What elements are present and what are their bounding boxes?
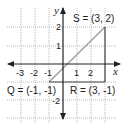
point-s-label: S = (3, 2) xyxy=(73,13,114,24)
x-axis-label: x xyxy=(112,65,118,77)
y-tick-1: 1 xyxy=(56,41,61,51)
y-tick-neg2: -2 xyxy=(52,96,60,106)
coordinate-plane: x y -3 -2 -1 1 2 2 1 -2 S = (3, 2) Q = (… xyxy=(0,0,129,125)
x-tick-1: 1 xyxy=(74,68,79,78)
x-tick-2: 2 xyxy=(88,68,93,78)
x-tick-neg1: -1 xyxy=(44,68,52,78)
point-r-label: R = (3, -1) xyxy=(70,85,115,96)
point-q-label: Q = (-1, -1) xyxy=(7,85,56,96)
grid xyxy=(7,8,116,124)
y-axis-label: y xyxy=(53,4,59,16)
x-tick-neg2: -2 xyxy=(30,68,38,78)
x-tick-neg3: -3 xyxy=(16,68,24,78)
axes xyxy=(8,8,120,119)
y-tick-2: 2 xyxy=(56,22,61,32)
